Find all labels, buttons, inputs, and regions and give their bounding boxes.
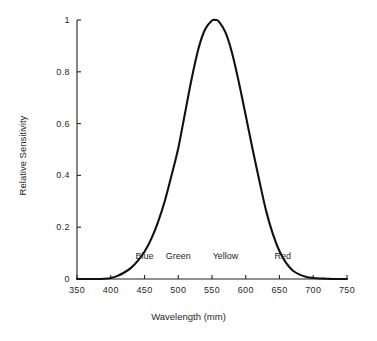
x-tick-label: 600 xyxy=(238,285,254,295)
x-tick-label: 500 xyxy=(170,285,186,295)
x-tick-label: 400 xyxy=(103,285,119,295)
x-tick-label: 550 xyxy=(204,285,220,295)
x-tick-label: 750 xyxy=(339,285,355,295)
y-tick-label: 0.4 xyxy=(40,170,70,180)
sensitivity-curve xyxy=(77,20,347,279)
y-tick-label: 0.8 xyxy=(40,67,70,77)
band-label-blue: Blue xyxy=(135,251,153,261)
y-tick-label: 0.2 xyxy=(40,222,70,232)
x-tick-label: 650 xyxy=(271,285,287,295)
y-tick-label: 1 xyxy=(40,15,70,25)
y-tick-label: 0 xyxy=(40,274,70,284)
photopic-sensitivity-chart: 350400450500550600650700750 00.20.40.60.… xyxy=(0,0,377,341)
x-tick-label: 450 xyxy=(136,285,152,295)
x-tick-label: 350 xyxy=(69,285,85,295)
band-label-yellow: Yellow xyxy=(213,251,239,261)
x-axis-title: Wavelength (mm) xyxy=(0,311,377,322)
y-axis-ticks xyxy=(77,20,81,279)
band-label-green: Green xyxy=(166,251,191,261)
y-axis-title: Relative Sensitivity xyxy=(17,76,28,236)
x-tick-label: 700 xyxy=(305,285,321,295)
y-tick-label: 0.6 xyxy=(40,119,70,129)
band-label-red: Red xyxy=(275,251,292,261)
